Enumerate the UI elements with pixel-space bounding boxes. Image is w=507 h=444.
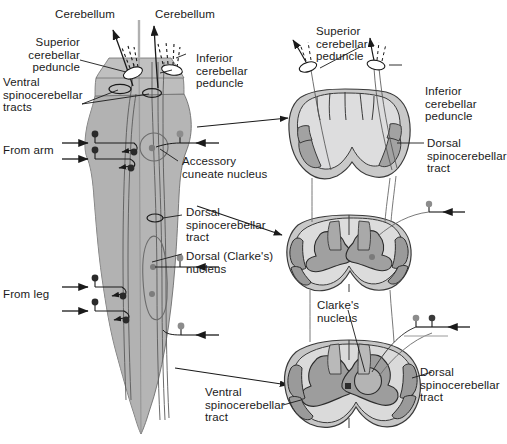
- label-dorsal-spinocerebellar-tract-top: Dorsal spinocerebellar tract: [427, 137, 507, 175]
- label-accessory-cuneate-nucleus: Accessory cuneate nucleus: [182, 155, 267, 180]
- label-dorsal-spinocerebellar-tract-left: Dorsal spinocerebellar tract: [186, 206, 266, 244]
- label-cerebellum-right: Cerebellum: [155, 8, 215, 21]
- spinocerebellar-tract-figure: Cerebellum Cerebellum Superior cerebella…: [0, 0, 507, 444]
- left-label-ticks: [176, 54, 186, 58]
- cervical-cord-section: [287, 176, 465, 342]
- label-superior-cerebellar-peduncle-right: Superior cerebellar peduncle: [316, 25, 368, 63]
- label-dorsal-spinocerebellar-tract-bottom: Dorsal spinocerebellar tract: [420, 366, 500, 404]
- acn-cell-body: [149, 145, 155, 151]
- label-inferior-cerebellar-peduncle-left: Inferior cerebellar peduncle: [196, 52, 248, 90]
- label-from-arm: From arm: [3, 144, 54, 157]
- label-cerebellum-left: Cerebellum: [55, 8, 115, 21]
- label-clarkes-nucleus: Clarke's nucleus: [317, 299, 359, 324]
- label-inferior-cerebellar-peduncle-right: Inferior cerebellar peduncle: [425, 85, 477, 123]
- label-ventral-spinocerebellar-tract-left: Ventral spinocerebellar tract: [205, 386, 285, 424]
- label-ventral-spinocerebellar-tracts: Ventral spinocerebellar tracts: [3, 76, 83, 114]
- label-superior-cerebellar-peduncle-left: Superior cerebellar peduncle: [14, 36, 80, 74]
- spinal-cord-silhouette: [85, 20, 191, 434]
- label-dorsal-clarkes-nucleus: Dorsal (Clarke's) nucleus: [186, 250, 273, 275]
- label-from-leg: From leg: [3, 288, 49, 301]
